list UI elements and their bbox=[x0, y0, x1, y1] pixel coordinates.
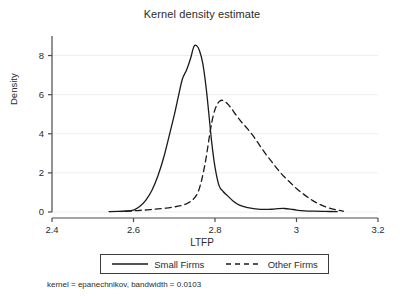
legend-label: Other Firms bbox=[268, 259, 318, 270]
series-line-small-firms bbox=[109, 45, 337, 211]
legend-entry-small-firms: Small Firms bbox=[111, 259, 204, 270]
kernel-density-chart: Kernel density estimate Density 02468 2.… bbox=[0, 0, 404, 296]
x-axis-label: LTFP bbox=[0, 237, 404, 248]
chart-footnote: kernel = epanechnikov, bandwidth = 0.010… bbox=[47, 280, 201, 289]
legend-label: Small Firms bbox=[154, 259, 204, 270]
dashed-line-swatch-icon bbox=[225, 259, 263, 269]
chart-legend: Small FirmsOther Firms bbox=[100, 254, 329, 274]
plot-area bbox=[0, 0, 404, 296]
solid-line-swatch-icon bbox=[111, 259, 149, 269]
legend-entry-other-firms: Other Firms bbox=[225, 259, 318, 270]
series-line-other-firms bbox=[125, 100, 343, 211]
